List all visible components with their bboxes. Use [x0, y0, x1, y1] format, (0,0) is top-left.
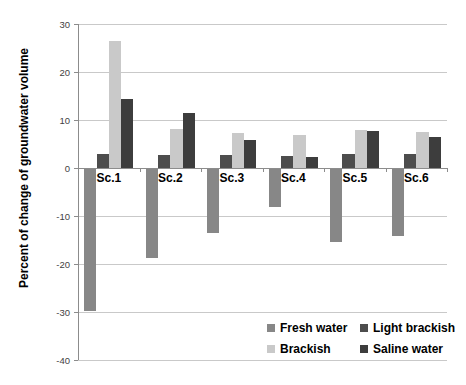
- bar-light-brackish-sc-4: [281, 156, 293, 168]
- bar-saline-water-sc-2: [183, 113, 195, 168]
- category-axis-tick-2: [201, 168, 202, 172]
- legend-item-brackish: Brackish: [267, 343, 360, 355]
- y-axis-tick--40: [74, 360, 78, 361]
- bar-saline-water-sc-4: [306, 157, 318, 168]
- bar-fresh-water-sc-3: [207, 169, 219, 233]
- groundwater-change-bar-chart: Percent of change of groundwater volume …: [0, 0, 466, 385]
- bar-light-brackish-sc-1: [97, 154, 109, 168]
- category-label-sc-5: Sc.5: [342, 172, 367, 185]
- category-axis-tick-6: [447, 168, 448, 172]
- y-tick-label-20: 20: [40, 68, 70, 78]
- legend-swatch-brackish-icon: [267, 345, 275, 353]
- category-label-sc-1: Sc.1: [96, 172, 121, 185]
- category-label-sc-6: Sc.6: [404, 172, 429, 185]
- category-axis-tick-0: [78, 168, 79, 172]
- bar-saline-water-sc-1: [121, 99, 133, 168]
- bar-light-brackish-sc-3: [220, 155, 232, 168]
- legend-swatch-light-brackish-icon: [360, 324, 368, 332]
- bar-fresh-water-sc-1: [84, 169, 96, 311]
- bar-light-brackish-sc-5: [342, 154, 354, 168]
- bar-fresh-water-sc-6: [392, 169, 404, 236]
- y-tick-label--20: -20: [40, 260, 70, 270]
- y-axis-title: Percent of change of groundwater volume: [17, 48, 31, 288]
- bar-light-brackish-sc-6: [404, 154, 416, 168]
- legend-label-saline-water: Saline water: [373, 343, 443, 355]
- gridline-y--40: [78, 360, 447, 361]
- y-tick-label-10: 10: [40, 116, 70, 126]
- category-axis-tick-1: [140, 168, 141, 172]
- legend-swatch-saline-water-icon: [360, 345, 368, 353]
- bar-saline-water-sc-3: [244, 140, 256, 168]
- gridline-y--30: [78, 312, 447, 313]
- y-tick-label-0: 0: [40, 164, 70, 174]
- bar-brackish-sc-3: [232, 133, 244, 169]
- bar-fresh-water-sc-2: [146, 169, 158, 258]
- bar-brackish-sc-1: [109, 41, 121, 168]
- legend: Fresh waterLight brackishBrackishSaline …: [267, 322, 455, 355]
- legend-label-brackish: Brackish: [280, 343, 331, 355]
- legend-item-fresh-water: Fresh water: [267, 322, 360, 334]
- y-tick-label-30: 30: [40, 20, 70, 30]
- bar-brackish-sc-2: [170, 129, 182, 168]
- y-tick-label--30: -30: [40, 308, 70, 318]
- category-label-sc-3: Sc.3: [219, 172, 244, 185]
- bar-brackish-sc-5: [355, 130, 367, 168]
- category-label-sc-2: Sc.2: [158, 172, 183, 185]
- bar-fresh-water-sc-5: [330, 169, 342, 242]
- gridline-y-30: [78, 24, 447, 25]
- bar-light-brackish-sc-2: [158, 155, 170, 168]
- category-axis-tick-5: [386, 168, 387, 172]
- legend-label-fresh-water: Fresh water: [280, 322, 347, 334]
- gridline-y-20: [78, 72, 447, 73]
- y-tick-label--40: -40: [40, 356, 70, 366]
- bar-fresh-water-sc-4: [269, 169, 281, 207]
- bar-saline-water-sc-6: [429, 137, 441, 168]
- category-axis-tick-4: [324, 168, 325, 172]
- bar-brackish-sc-4: [293, 135, 305, 168]
- bar-saline-water-sc-5: [367, 131, 379, 168]
- legend-item-light-brackish: Light brackish: [360, 322, 455, 334]
- bar-brackish-sc-6: [416, 132, 428, 169]
- legend-label-light-brackish: Light brackish: [373, 322, 455, 334]
- gridline-y--20: [78, 264, 447, 265]
- y-axis-line: [78, 24, 79, 360]
- category-label-sc-4: Sc.4: [281, 172, 306, 185]
- category-axis-tick-3: [263, 168, 264, 172]
- y-tick-label--10: -10: [40, 212, 70, 222]
- legend-item-saline-water: Saline water: [360, 343, 455, 355]
- legend-swatch-fresh-water-icon: [267, 324, 275, 332]
